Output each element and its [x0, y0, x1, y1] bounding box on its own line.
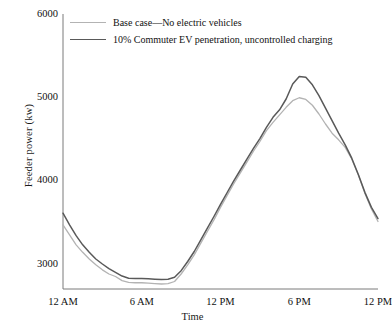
axis-spines — [63, 14, 378, 289]
x-tick-label: 6 AM — [130, 296, 154, 307]
y-tick-label: 6000 — [22, 9, 58, 20]
legend-entry-base-case: Base case—No electric vehicles — [70, 14, 370, 31]
legend-entry-label: 10% Commuter EV penetration, uncontrolle… — [113, 34, 333, 45]
legend-color-swatch — [70, 39, 106, 40]
x-tick-label: 12 PM — [206, 296, 234, 307]
x-axis-title: Time — [0, 311, 385, 322]
legend-entry-label: Base case—No electric vehicles — [113, 17, 242, 28]
legend-color-swatch — [70, 22, 106, 23]
y-tick-label: 3000 — [22, 259, 58, 270]
x-axis-ticks: 12 AM 6 AM 12 PM 6 PM 12 PM — [0, 296, 385, 312]
x-tick-label: 12 PM — [364, 296, 392, 307]
x-tick-label: 6 PM — [288, 296, 311, 307]
chart-legend: Base case—No electric vehicles 10% Commu… — [70, 14, 370, 48]
x-tick-label: 12 AM — [48, 296, 77, 307]
series-line-base-case — [63, 98, 378, 284]
series-line-ev-penetration — [63, 77, 378, 280]
y-axis-title: Feeder power (kw) — [23, 56, 34, 236]
series-lines — [63, 77, 378, 285]
legend-entry-ev-penetration: 10% Commuter EV penetration, uncontrolle… — [70, 31, 370, 48]
